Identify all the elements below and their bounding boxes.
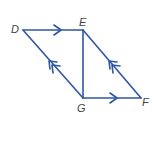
segment-dg [23, 30, 83, 98]
vertex-label-d: D [11, 23, 19, 35]
vertex-label-e: E [79, 16, 87, 28]
segment-ef [83, 30, 141, 98]
vertex-label-f: F [142, 96, 150, 108]
parallelogram-diagram: D E G F [0, 0, 154, 153]
diagram-svg: D E G F [0, 0, 154, 153]
vertex-label-g: G [77, 102, 86, 114]
